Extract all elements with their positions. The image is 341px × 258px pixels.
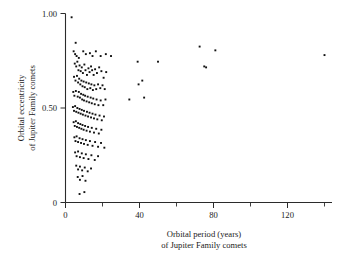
data-point [73, 50, 75, 52]
y-axis-ticks [61, 14, 66, 203]
data-point [95, 50, 97, 52]
data-point [79, 108, 81, 110]
data-point [157, 61, 159, 63]
data-point [103, 116, 105, 118]
data-point [90, 117, 92, 119]
data-point [110, 55, 112, 57]
data-point [97, 83, 99, 85]
data-point [92, 113, 94, 115]
data-point [75, 80, 77, 82]
y-tick-label-0.50: 0.50 [42, 103, 57, 113]
data-point [93, 74, 95, 76]
data-point [92, 89, 94, 91]
data-point [75, 140, 77, 142]
data-point [95, 114, 97, 116]
data-point [205, 66, 207, 68]
data-point [74, 151, 76, 153]
data-point [87, 116, 89, 118]
data-point [96, 118, 98, 120]
data-point [75, 65, 77, 67]
data-point [87, 170, 89, 172]
data-point [76, 61, 78, 63]
data-point [76, 155, 78, 157]
data-point [76, 55, 78, 57]
data-point [85, 180, 87, 182]
data-point [78, 127, 80, 129]
data-point [85, 69, 87, 71]
data-point [83, 110, 85, 112]
data-point [87, 144, 89, 146]
data-point [89, 112, 91, 114]
data-point [85, 139, 87, 141]
data-point [86, 88, 88, 90]
data-point [86, 74, 88, 76]
data-point [85, 82, 87, 84]
x-tick-label-0: 0 [63, 210, 67, 220]
data-point [93, 132, 95, 134]
data-point [78, 91, 80, 93]
data-point [89, 52, 91, 54]
data-point [79, 179, 81, 181]
data-point [75, 111, 77, 113]
data-point [95, 128, 97, 130]
data-point [82, 138, 84, 140]
data-point [84, 125, 86, 127]
data-point [79, 83, 81, 85]
data-point [82, 175, 84, 177]
data-point [89, 131, 91, 133]
data-point [128, 99, 130, 101]
data-point [79, 137, 81, 139]
data-point [80, 142, 82, 144]
data-point [80, 128, 82, 130]
data-point [71, 16, 73, 18]
data-point [84, 86, 86, 88]
data-point [101, 119, 103, 121]
data-point [77, 122, 79, 124]
data-point [92, 98, 94, 100]
y-tick-label-0: 0 [53, 198, 57, 208]
y-axis-title-line2: of Jupiter Family comets [27, 65, 37, 151]
data-point [78, 57, 80, 59]
data-point [76, 107, 78, 109]
data-point [324, 54, 326, 56]
data-point [96, 72, 98, 74]
data-point [93, 117, 95, 119]
data-point [79, 193, 81, 195]
data-point [83, 81, 85, 83]
data-point [94, 103, 96, 105]
data-point [92, 55, 94, 57]
data-point [78, 69, 80, 71]
data-point [90, 168, 92, 170]
data-point [80, 93, 82, 95]
data-point [87, 158, 89, 160]
data-point [81, 66, 83, 68]
data-point [91, 69, 93, 71]
data-point [86, 130, 88, 132]
data-point [74, 53, 76, 55]
data-point [83, 157, 85, 159]
data-point [103, 147, 105, 149]
data-point [90, 65, 92, 67]
data-point [80, 80, 82, 82]
data-point [85, 115, 87, 117]
data-point [93, 84, 95, 86]
data-point [80, 70, 82, 72]
data-point [102, 84, 104, 86]
data-point [141, 80, 143, 82]
scatter-points-group [71, 16, 326, 195]
data-point [81, 109, 83, 111]
data-point [96, 99, 98, 101]
data-point [74, 63, 76, 65]
data-point [99, 115, 101, 117]
data-point [83, 64, 85, 66]
data-point [89, 140, 91, 142]
data-point [103, 77, 105, 79]
data-point [100, 129, 102, 131]
data-point [94, 141, 96, 143]
data-point [82, 114, 84, 116]
x-axis-title-line1: Orbital period (years) [167, 229, 242, 239]
data-point [85, 53, 87, 55]
data-point [82, 94, 84, 96]
data-point [98, 133, 100, 135]
data-point [79, 97, 81, 99]
